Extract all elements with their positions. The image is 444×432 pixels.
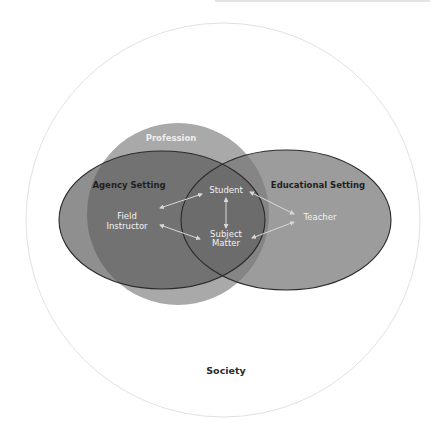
society-label: Society <box>206 365 246 376</box>
educational-setting-label: Educational Setting <box>271 180 365 190</box>
field-instructor-label-line2: Instructor <box>106 221 148 231</box>
field-instructor-label-line1: Field <box>117 211 137 221</box>
subject-matter-label-line2: Matter <box>212 238 240 248</box>
agency-setting-label: Agency Setting <box>92 180 165 190</box>
venn-diagram: Profession Agency Setting Educational Se… <box>0 0 444 432</box>
teacher-label: Teacher <box>303 212 337 222</box>
profession-label: Profession <box>146 133 197 143</box>
student-label: Student <box>209 185 243 195</box>
